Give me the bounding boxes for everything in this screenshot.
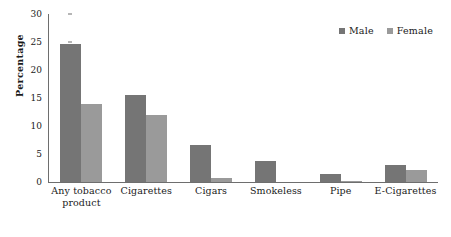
bar-group xyxy=(49,14,114,182)
y-axis-tick-label: 15 xyxy=(31,94,42,103)
bar-female xyxy=(81,104,102,182)
y-axis-tick-labels: 302520151050 xyxy=(24,14,42,182)
x-axis-category-label: Pipe xyxy=(308,185,373,208)
bar-group xyxy=(179,14,244,182)
plot-area: Percentage 302520151050 Any tobaccoprodu… xyxy=(0,14,451,196)
bar-group xyxy=(243,14,308,182)
y-axis-label: Percentage xyxy=(14,21,25,111)
bar-groups xyxy=(49,14,438,182)
y-axis-tick-label: 5 xyxy=(36,150,42,159)
y-axis-tick-label: 10 xyxy=(31,122,42,131)
y-axis-tick-label: 30 xyxy=(31,10,42,19)
bar-female xyxy=(341,181,362,182)
x-axis-category-label: Smokeless xyxy=(243,185,308,208)
bar-male xyxy=(385,165,406,182)
y-axis-tick-label: 25 xyxy=(31,38,42,47)
x-axis-category-labels: Any tobaccoproductCigarettesCigarsSmokel… xyxy=(49,185,438,208)
bar-female xyxy=(211,178,232,182)
x-axis-category-label: Cigars xyxy=(179,185,244,208)
bar-chart: Male Female Percentage 302520151050 Any … xyxy=(0,0,451,237)
x-axis-category-label: E-Cigarettes xyxy=(373,185,438,208)
bar-male xyxy=(255,161,276,182)
bar-male xyxy=(320,174,341,182)
bar-group xyxy=(114,14,179,182)
bar-male xyxy=(60,44,81,182)
x-axis-category-label: Any tobaccoproduct xyxy=(49,185,114,208)
bar-female xyxy=(406,170,427,182)
bar-group xyxy=(308,14,373,182)
y-axis-tick-label: 0 xyxy=(36,178,42,187)
bar-male xyxy=(190,145,211,182)
x-axis-category-label: Cigarettes xyxy=(114,185,179,208)
bar-group xyxy=(373,14,438,182)
x-axis-line xyxy=(48,182,438,183)
y-axis-tick-label: 20 xyxy=(31,66,42,75)
bar-female xyxy=(146,115,167,182)
bar-male xyxy=(125,95,146,182)
